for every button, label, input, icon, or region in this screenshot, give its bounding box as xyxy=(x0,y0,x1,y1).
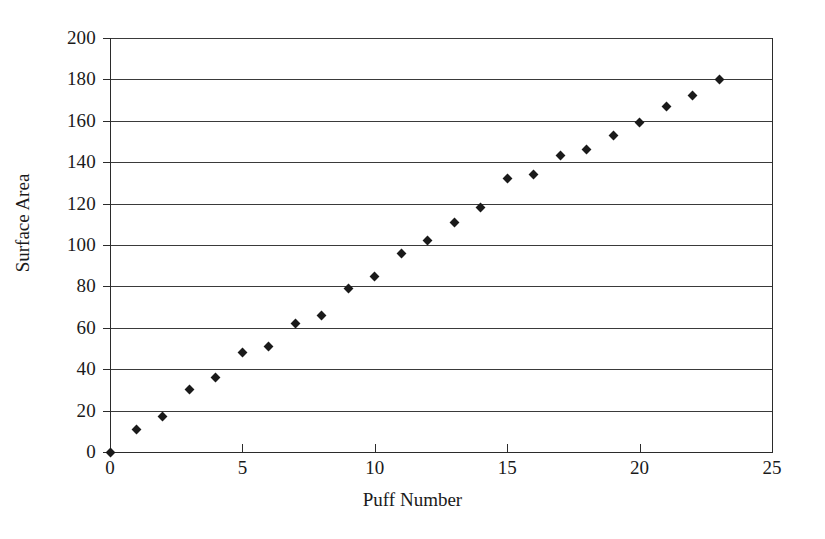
y-axis-title: Surface Area xyxy=(12,143,34,303)
x-axis-tick xyxy=(507,444,508,453)
gridline-horizontal xyxy=(110,245,772,246)
plot-area xyxy=(110,38,772,452)
y-axis-tick-label-text: 160 xyxy=(50,111,96,130)
x-axis-tick-label: 15 xyxy=(477,457,537,479)
gridline-horizontal xyxy=(110,204,772,205)
x-axis-tick xyxy=(640,444,641,453)
x-axis-tick-label: 0 xyxy=(80,457,140,479)
y-axis-tick-label: 140 xyxy=(36,152,96,171)
x-axis-tick-label: 5 xyxy=(212,457,272,479)
x-axis-tick-label: 25 xyxy=(742,457,802,479)
y-axis-tick-label-text: 80 xyxy=(50,276,96,295)
y-axis-tick-label-text: 20 xyxy=(50,401,96,420)
y-axis-tick-label-text: 40 xyxy=(50,359,96,378)
y-axis-tick xyxy=(103,162,111,163)
gridline-horizontal xyxy=(110,79,772,80)
y-axis-tick xyxy=(103,79,111,80)
x-axis-line xyxy=(110,452,772,453)
x-axis-tick-label: 10 xyxy=(345,457,405,479)
gridline-horizontal xyxy=(110,411,772,412)
gridline-horizontal xyxy=(110,162,772,163)
y-axis-tick-label-text: 180 xyxy=(50,69,96,88)
y-axis-tick-label-text: 100 xyxy=(50,235,96,254)
y-axis-tick-label: 20 xyxy=(36,401,96,420)
y-axis-tick-label: 100 xyxy=(36,235,96,254)
gridline-horizontal xyxy=(110,369,772,370)
y-axis-tick xyxy=(103,121,111,122)
scatter-chart: 020406080100120140160180200 0510152025 P… xyxy=(0,0,825,539)
y-axis-tick xyxy=(103,328,111,329)
y-axis-tick-label: 40 xyxy=(36,359,96,378)
gridline-horizontal xyxy=(110,328,772,329)
y-axis-tick-label-text: 140 xyxy=(50,152,96,171)
x-axis-tick-label: 20 xyxy=(610,457,670,479)
gridline-horizontal xyxy=(110,286,772,287)
gridline-horizontal xyxy=(110,121,772,122)
y-axis-tick xyxy=(103,204,111,205)
y-axis-tick-label: 80 xyxy=(36,276,96,295)
x-axis-tick xyxy=(772,444,773,453)
y-axis-tick-label: 200 xyxy=(36,28,96,47)
y-axis-tick-label: 60 xyxy=(36,318,96,337)
y-axis-tick xyxy=(103,38,111,39)
x-axis-tick xyxy=(242,444,243,453)
y-axis-tick-label: 160 xyxy=(36,111,96,130)
plot-right-border xyxy=(772,38,773,452)
y-axis-tick-label: 120 xyxy=(36,194,96,213)
y-axis-tick xyxy=(103,411,111,412)
x-axis-title: Puff Number xyxy=(0,489,825,511)
y-axis-tick-label: 180 xyxy=(36,69,96,88)
y-axis-tick-label-text: 120 xyxy=(50,194,96,213)
y-axis-tick xyxy=(103,286,111,287)
y-axis-tick-label-text: 60 xyxy=(50,318,96,337)
gridline-horizontal xyxy=(110,38,772,39)
y-axis-tick-label-text: 200 xyxy=(50,28,96,47)
y-axis-tick xyxy=(103,369,111,370)
y-axis-tick xyxy=(103,245,111,246)
x-axis-tick xyxy=(375,444,376,453)
